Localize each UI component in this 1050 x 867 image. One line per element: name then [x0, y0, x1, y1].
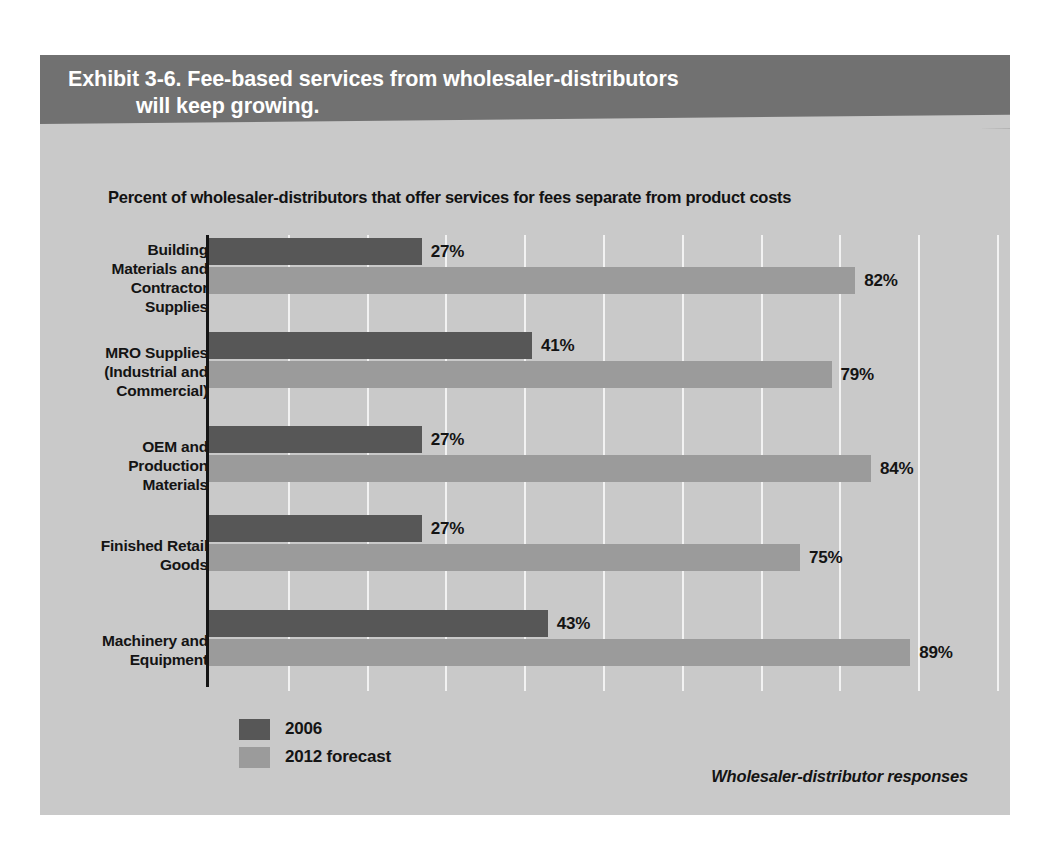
chart-plot-area: BuildingMaterials andContractorSupplies2…: [40, 55, 1010, 815]
gridline-90: [918, 235, 920, 691]
category-label: OEM andProductionMaterials: [48, 437, 208, 494]
legend-item: 2006: [239, 715, 391, 743]
bar-2006: [209, 515, 422, 542]
bar-value-label: 84%: [880, 459, 913, 479]
category-label: Finished RetailGoods: [48, 536, 208, 574]
bar-value-label: 43%: [557, 614, 590, 634]
bar-value-label: 82%: [864, 271, 897, 291]
legend-swatch: [239, 719, 270, 740]
bar-value-label: 41%: [541, 336, 574, 356]
category-label: BuildingMaterials andContractorSupplies: [48, 240, 208, 316]
category-label-line: Materials and: [48, 259, 208, 278]
bar-2006: [209, 426, 422, 453]
category-label-line: Building: [48, 240, 208, 259]
category-label-line: Commercial): [48, 381, 208, 400]
bar-2012-forecast: [209, 544, 800, 571]
bar-2006: [209, 610, 548, 637]
legend-label: 2012 forecast: [285, 747, 391, 767]
gridline-100: [997, 235, 999, 691]
category-label-line: Goods: [48, 555, 208, 574]
bar-value-label: 27%: [431, 519, 464, 539]
bar-value-label: 79%: [841, 365, 874, 385]
category-label-line: Machinery and: [48, 631, 208, 650]
bar-value-label: 89%: [919, 643, 952, 663]
bar-2012-forecast: [209, 361, 832, 388]
bar-2012-forecast: [209, 639, 910, 666]
source-note: Wholesaler-distributor responses: [711, 767, 968, 786]
legend-item: 2012 forecast: [239, 743, 391, 771]
category-label-line: Supplies: [48, 297, 208, 316]
bar-2006: [209, 332, 532, 359]
bar-2012-forecast: [209, 267, 855, 294]
category-label-line: MRO Supplies: [48, 343, 208, 362]
category-label-line: Equipment: [48, 650, 208, 669]
bar-2012-forecast: [209, 455, 871, 482]
chart-legend: 20062012 forecast: [239, 715, 391, 771]
category-label: MRO Supplies(Industrial andCommercial): [48, 343, 208, 400]
exhibit-panel: Exhibit 3-6. Fee-based services from who…: [40, 55, 1010, 815]
category-label-line: Finished Retail: [48, 536, 208, 555]
bar-2006: [209, 238, 422, 265]
legend-label: 2006: [285, 719, 322, 739]
bar-value-label: 27%: [431, 430, 464, 450]
category-label-line: Materials: [48, 475, 208, 494]
category-label-line: (Industrial and: [48, 362, 208, 381]
category-label-line: Contractor: [48, 278, 208, 297]
bar-value-label: 75%: [809, 548, 842, 568]
category-label: Machinery andEquipment: [48, 631, 208, 669]
legend-swatch: [239, 747, 270, 768]
bar-value-label: 27%: [431, 242, 464, 262]
category-label-line: OEM and: [48, 437, 208, 456]
category-label-line: Production: [48, 456, 208, 475]
